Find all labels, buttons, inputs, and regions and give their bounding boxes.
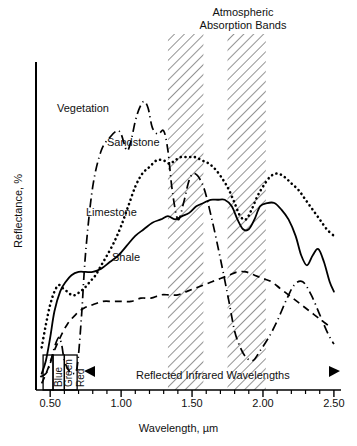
x-tick-label-4: 2.50 (323, 397, 344, 409)
curve-label-shale: Shale (112, 251, 140, 263)
curve-label-sandstone: Sandstone (107, 136, 160, 148)
absorption-title-line-0: Atmospheric (178, 6, 308, 19)
x-tick-label-2: 1.50 (181, 397, 202, 409)
absorption-band-1 (228, 34, 266, 390)
x-axis-label: Wavelength, µm (0, 422, 357, 434)
absorption-title-line-1: Absorption Bands (178, 19, 308, 32)
spectral-band-label-green: Green (63, 359, 74, 387)
absorption-band-0 (168, 34, 203, 390)
curve-label-vegetation: Vegetation (57, 102, 109, 114)
curve-label-limestone: Limestone (86, 206, 137, 218)
spectral-band-label-blue: Blue (53, 367, 64, 387)
spectral-band-label-red: Red (75, 369, 86, 387)
reflected-infrared-label: Reflected Infrared Wavelengths (136, 369, 290, 381)
absorption-bands-title: AtmosphericAbsorption Bands (178, 6, 308, 32)
x-tick-label-1: 1.00 (110, 397, 131, 409)
y-axis-label: Reflectance, % (12, 146, 24, 276)
x-tick-label-3: 2.00 (252, 397, 273, 409)
x-tick-label-0: 0.50 (39, 397, 60, 409)
